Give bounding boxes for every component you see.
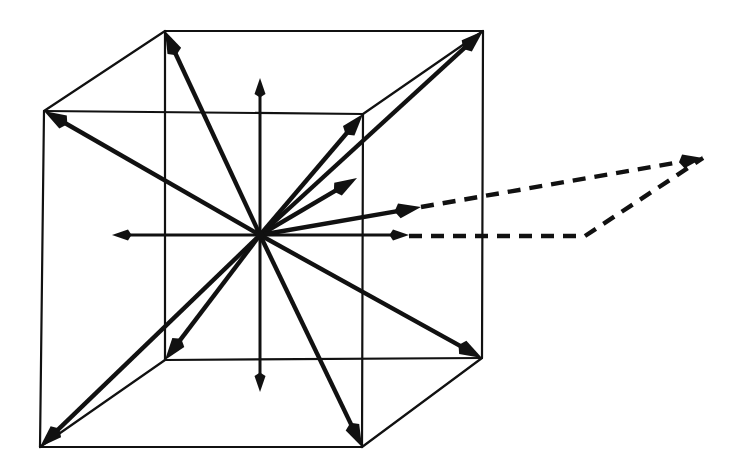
vector-front-bottom-right-shaft [260,235,357,436]
vector-right-face-mid-head [334,178,357,196]
figure-root [0,0,739,474]
cube-edge-front_top_left-to-back_top_left [44,31,165,111]
vector-back-top-left-shaft [170,42,260,235]
vector-back-bottom-left-head [165,338,184,360]
cube-edge-back_top_right-to-back_bottom_right [482,31,483,358]
vector-up-head [255,78,266,98]
cube-edge-back_bottom_right-to-back_bottom_left [165,358,482,360]
vector-front-top-left-head [44,111,67,128]
origin-point [256,231,264,239]
vector-back-bottom-right-head [459,341,482,358]
dashed-upper-extension-path [421,158,703,207]
vector-front-top-left-shaft [54,117,260,235]
vector-front-bottom-right-head [346,423,362,447]
vector-down-head [255,372,266,392]
cube-edge-front_bottom_left-to-front_top_left [40,111,44,447]
vector-front-bottom-left-shaft [49,235,260,439]
dashed-extension-group [409,155,703,236]
vector-right-head [389,230,409,241]
vector-back-top-right-head [462,31,483,51]
cube-vector-diagram [0,0,739,474]
vector-front-top-right-head [343,114,363,136]
vector-front-bottom-left-head [40,426,61,447]
vector-back-top-left-head [165,31,181,55]
vector-back-top-right-shaft [260,39,474,235]
vector-back-bottom-right-shaft [260,235,471,352]
origin-dot [256,231,264,239]
vector-front-top-right-shaft [260,123,355,235]
vector-back-bottom-left-shaft [172,235,260,350]
cube-edge-front_top_right-to-front_bottom_right [362,114,363,447]
cube-edge-front_bottom_right-to-back_bottom_right [362,358,482,447]
vector-group [40,31,483,447]
dashed-lower-extension-path [409,158,703,236]
vector-left-head [112,230,132,241]
vector-upper-right-out-head [395,203,421,218]
